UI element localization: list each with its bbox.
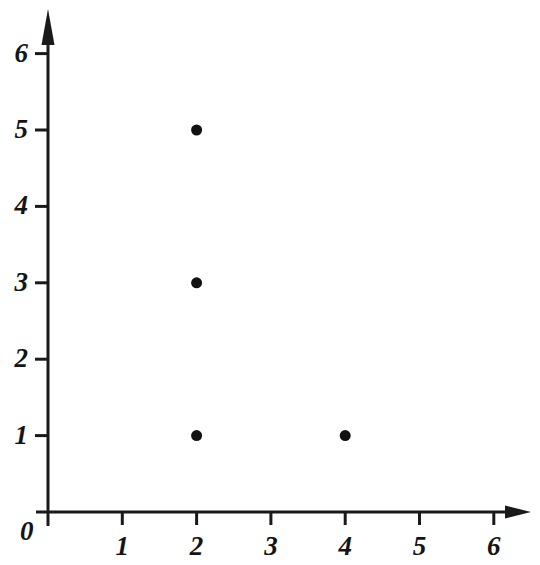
data-point bbox=[340, 430, 351, 441]
data-points-group bbox=[191, 125, 351, 442]
data-point bbox=[191, 277, 202, 288]
data-point bbox=[191, 430, 202, 441]
tick-marks-group bbox=[35, 54, 494, 525]
y-tick-label: 1 bbox=[0, 422, 28, 449]
x-tick-label: 6 bbox=[474, 533, 514, 560]
axes-group bbox=[36, 9, 531, 526]
x-axis-arrowhead bbox=[505, 506, 531, 519]
y-tick-label: 3 bbox=[0, 269, 28, 296]
y-tick-label: 2 bbox=[0, 345, 28, 372]
x-tick-label: 3 bbox=[251, 533, 291, 560]
origin-label: 0 bbox=[20, 518, 50, 545]
y-tick-label: 6 bbox=[0, 40, 28, 67]
plot-canvas bbox=[0, 0, 540, 565]
x-tick-label: 5 bbox=[400, 533, 440, 560]
x-tick-label: 4 bbox=[325, 533, 365, 560]
x-tick-label: 2 bbox=[177, 533, 217, 560]
y-tick-label: 5 bbox=[0, 116, 28, 143]
x-tick-label: 1 bbox=[102, 533, 142, 560]
data-point bbox=[191, 125, 202, 136]
y-tick-label: 4 bbox=[0, 192, 28, 219]
scatter-plot-figure: 0123456123456 bbox=[0, 0, 540, 565]
y-axis-arrowhead bbox=[42, 9, 55, 45]
